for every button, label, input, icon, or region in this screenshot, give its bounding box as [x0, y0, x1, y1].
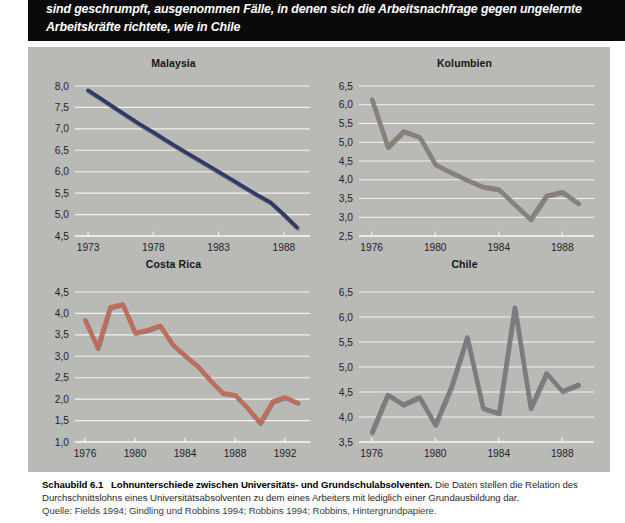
chart-svg-kolumbien: 6,56,05,55,04,54,03,53,02,51976198019841…: [319, 51, 610, 263]
svg-text:1988: 1988: [551, 448, 574, 459]
svg-text:1976: 1976: [74, 448, 97, 459]
svg-text:4,0: 4,0: [339, 174, 353, 185]
caption-figure-number: Schaubild 6.1: [42, 479, 103, 490]
left-gutter: [0, 0, 28, 523]
top-banner: sind geschrumpft, ausgenommen Fälle, in …: [28, 0, 625, 41]
svg-text:7,5: 7,5: [55, 102, 69, 113]
svg-text:6,5: 6,5: [339, 81, 353, 92]
svg-text:1980: 1980: [424, 448, 447, 459]
banner-line-1: sind geschrumpft, ausgenommen Fälle, in …: [46, 1, 607, 19]
chart-malaysia: Malaysia 8,07,57,06,56,05,55,04,51973197…: [28, 51, 319, 263]
chart-chile: Chile 6,56,05,55,04,54,03,51976198019841…: [319, 252, 610, 464]
svg-text:2,0: 2,0: [55, 394, 69, 405]
svg-text:1984: 1984: [174, 448, 197, 459]
chart-grid: Malaysia 8,07,57,06,56,05,55,04,51973197…: [28, 47, 610, 472]
svg-text:6,0: 6,0: [339, 312, 353, 323]
chart-svg-malaysia: 8,07,57,06,56,05,55,04,51973197819831988: [28, 51, 319, 263]
svg-text:5,5: 5,5: [339, 118, 353, 129]
chart-svg-costa-rica: 4,54,03,53,02,52,01,51,01976198019841988…: [28, 252, 319, 464]
svg-text:2,5: 2,5: [55, 372, 69, 383]
svg-text:3,0: 3,0: [339, 212, 353, 223]
svg-text:4,5: 4,5: [55, 287, 69, 298]
svg-text:4,5: 4,5: [339, 387, 353, 398]
svg-text:6,5: 6,5: [55, 145, 69, 156]
svg-text:6,0: 6,0: [339, 99, 353, 110]
svg-text:8,0: 8,0: [55, 81, 69, 92]
svg-text:4,5: 4,5: [339, 156, 353, 167]
chart-costa-rica: Costa Rica 4,54,03,53,02,52,01,51,019761…: [28, 252, 319, 464]
caption-title: Lohnunterschiede zwischen Universitäts- …: [111, 479, 432, 490]
svg-text:5,5: 5,5: [55, 188, 69, 199]
svg-text:6,0: 6,0: [55, 166, 69, 177]
chart-svg-chile: 6,56,05,55,04,54,03,51976198019841988: [319, 252, 610, 464]
svg-text:5,0: 5,0: [55, 209, 69, 220]
caption-main: Schaubild 6.1 Lohnunterschiede zwischen …: [42, 478, 596, 504]
banner-line-2: Arbeitskräfte richtete, wie in Chile: [46, 19, 607, 37]
svg-text:3,5: 3,5: [55, 329, 69, 340]
svg-text:1984: 1984: [487, 448, 510, 459]
svg-text:5,0: 5,0: [339, 362, 353, 373]
svg-text:5,0: 5,0: [339, 137, 353, 148]
svg-text:3,5: 3,5: [339, 193, 353, 204]
figure-caption: Schaubild 6.1 Lohnunterschiede zwischen …: [28, 472, 610, 523]
svg-text:5,5: 5,5: [339, 337, 353, 348]
svg-text:1980: 1980: [124, 448, 147, 459]
figure-panel: Malaysia 8,07,57,06,56,05,55,04,51973197…: [28, 47, 610, 523]
svg-text:1976: 1976: [360, 448, 383, 459]
svg-text:1,5: 1,5: [55, 415, 69, 426]
svg-text:4,0: 4,0: [339, 412, 353, 423]
svg-text:3,5: 3,5: [339, 437, 353, 448]
svg-text:1988: 1988: [224, 448, 247, 459]
svg-text:1,0: 1,0: [55, 437, 69, 448]
chart-kolumbien: Kolumbien 6,56,05,55,04,54,03,53,02,5197…: [319, 51, 610, 263]
caption-source: Quelle: Fields 1994; Gindling und Robbin…: [42, 504, 596, 517]
svg-text:6,5: 6,5: [339, 287, 353, 298]
svg-text:2,5: 2,5: [339, 231, 353, 242]
svg-text:3,0: 3,0: [55, 351, 69, 362]
svg-text:7,0: 7,0: [55, 123, 69, 134]
svg-text:4,5: 4,5: [55, 231, 69, 242]
svg-text:4,0: 4,0: [55, 308, 69, 319]
svg-text:1992: 1992: [274, 448, 297, 459]
